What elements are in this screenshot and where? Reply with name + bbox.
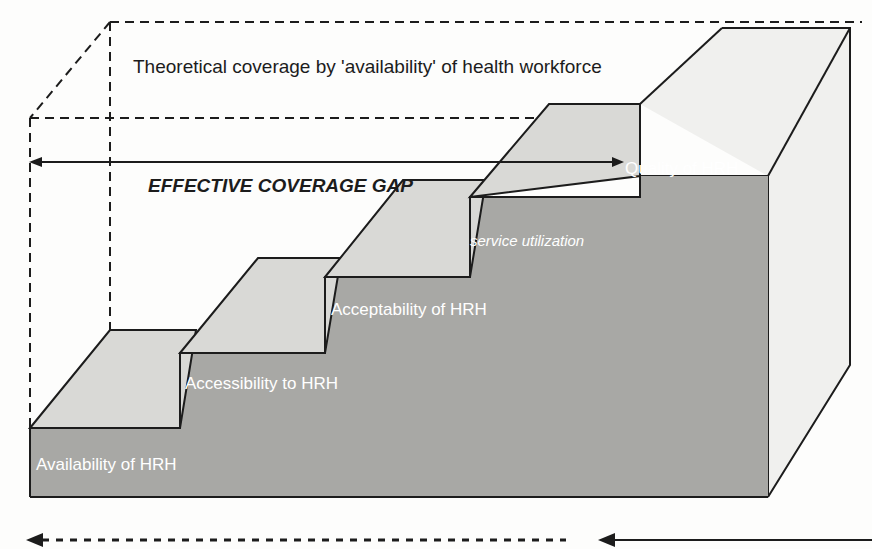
effective-coverage-diagram: Theoretical coverage by 'availability' o… [0,0,872,549]
bottom-solid-arrowhead [598,533,615,547]
theoretical-coverage-label: Theoretical coverage by 'availability' o… [133,56,602,77]
bottom-dashed-arrowhead [26,533,43,547]
dashed-top-left-diagonal [30,22,110,118]
step-1-top-face [30,330,196,428]
effective-coverage-gap-label: EFFECTIVE COVERAGE GAP [148,175,413,196]
step-1-label: Availability of HRH [36,455,176,474]
service-utilization-label: service utilization [470,232,584,249]
bottom-dashed-arrow [26,533,566,547]
step-3-label: Acceptability of HRH [331,300,487,319]
diagram-canvas: Theoretical coverage by 'availability' o… [0,0,872,549]
step-2-top-face [180,258,341,353]
step-4-label: Quality of HRH [625,159,738,178]
step-2-label: Accessibility to HRH [185,374,338,393]
bottom-solid-arrow [598,533,872,547]
